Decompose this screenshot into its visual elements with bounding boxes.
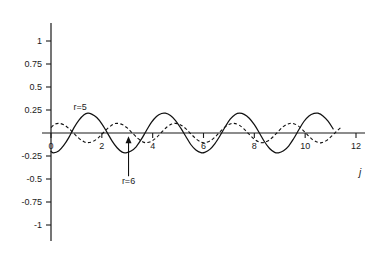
x-axis-title: j <box>357 167 362 178</box>
annotation-label-r6: r=6 <box>122 176 135 186</box>
x-tick-label: 8 <box>252 141 257 151</box>
y-tick-label: 0.75 <box>24 59 42 69</box>
x-tick-label: 12 <box>351 141 361 151</box>
axes-group <box>42 23 365 241</box>
y-tick-label: 1 <box>37 36 42 46</box>
y-tick-label: 0.5 <box>29 82 42 92</box>
y-tick-label: -0.5 <box>26 174 42 184</box>
y-tick-label: -0.75 <box>21 197 42 207</box>
annotations-group: r=5 r=6 <box>74 102 136 186</box>
y-tick-label: -1 <box>34 220 42 230</box>
x-tick-label: 0 <box>48 141 53 151</box>
annotation-arrowhead-r6 <box>126 136 132 143</box>
x-tick-label: 2 <box>99 141 104 151</box>
y-tick-label: -0.25 <box>21 151 42 161</box>
x-tick-label: 10 <box>300 141 310 151</box>
annotation-label-r5: r=5 <box>74 102 87 112</box>
x-tick-label: 4 <box>150 141 155 151</box>
chart-container: 10.750.50.25-0.25-0.5-0.75-1 024681012 r… <box>0 0 379 274</box>
x-axis-ticks: 024681012 <box>48 133 361 151</box>
oscillation-plot: 10.750.50.25-0.25-0.5-0.75-1 024681012 r… <box>0 0 379 274</box>
y-tick-label: 0.25 <box>24 105 42 115</box>
